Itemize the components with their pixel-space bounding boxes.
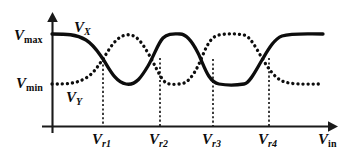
x-tick-label-vr3: Vr3 <box>202 131 221 147</box>
figure-canvas: Vmax Vmin VX VY Vr1 Vr2 Vr3 Vr4 Vin <box>0 0 360 155</box>
curve-label-vy: VY <box>66 89 82 105</box>
x-axis <box>42 121 338 132</box>
curve-vx <box>52 34 323 85</box>
y-tick-label-vmin: Vmin <box>16 75 43 91</box>
droplines-group <box>103 58 269 126</box>
curve-vy <box>52 34 323 84</box>
plot-svg <box>0 0 360 155</box>
x-tick-label-vr1: Vr1 <box>92 131 111 147</box>
x-axis-label: Vin <box>318 131 337 147</box>
y-tick-label-vmax: Vmax <box>14 27 43 43</box>
x-tick-label-vr2: Vr2 <box>149 131 168 147</box>
y-axis <box>47 12 58 133</box>
curve-label-vx: VX <box>74 19 91 35</box>
x-tick-label-vr4: Vr4 <box>258 131 277 147</box>
y-axis-arrow-icon <box>47 12 58 22</box>
